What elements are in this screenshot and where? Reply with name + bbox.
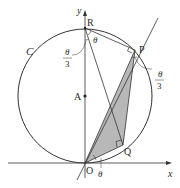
- angle-label-theta-o: θ: [98, 169, 103, 179]
- geometry-diagram: y x R P Q O A C θ θ 3 θ 3 θ: [0, 0, 180, 188]
- point-r: [84, 27, 86, 29]
- angle-label-theta3-r-num: θ: [65, 47, 70, 57]
- angle-label-theta3-p-num: θ: [158, 69, 163, 79]
- label-a: A: [74, 91, 82, 102]
- label-o: O: [86, 165, 93, 176]
- label-r: R: [87, 17, 94, 28]
- angle-label-theta-r: θ: [93, 35, 98, 45]
- label-q: Q: [124, 146, 132, 157]
- y-axis-arrow-icon: [83, 10, 87, 16]
- leader-theta3-r: [72, 41, 86, 55]
- angle-arc-r: [88, 31, 91, 35]
- angle-label-theta3-p-den: 3: [157, 81, 162, 91]
- x-axis-label: x: [167, 168, 173, 179]
- point-a: [83, 94, 86, 97]
- y-axis-label: y: [76, 5, 82, 16]
- label-c: C: [26, 45, 34, 57]
- x-axis-arrow-icon: [166, 161, 172, 165]
- angle-arc-r-left: [85, 40, 89, 41]
- label-p: P: [139, 44, 145, 55]
- angle-label-theta3-r-den: 3: [65, 59, 70, 69]
